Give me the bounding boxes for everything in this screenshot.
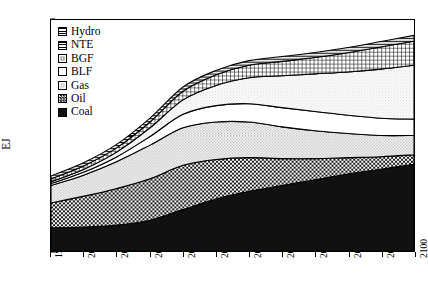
x-tick-mark — [116, 252, 117, 257]
x-tick-mark — [249, 252, 250, 257]
x-tick-mark — [183, 252, 184, 257]
legend-item-nte[interactable]: NTE — [58, 38, 100, 51]
x-tick-mark — [349, 252, 350, 257]
legend-label: BGF — [71, 53, 93, 65]
legend-swatch-gas-icon — [58, 81, 67, 90]
legend-swatch-blf-icon — [58, 67, 67, 76]
chart-legend: HydroNTEBGFBLFGasOilCoal — [58, 25, 100, 119]
y-axis-label: EJ — [0, 138, 12, 150]
legend-label: Gas — [71, 80, 89, 92]
legend-swatch-oil-icon — [58, 94, 67, 103]
x-tick-mark — [83, 252, 84, 257]
x-tick-label: 2100 — [419, 239, 428, 258]
legend-item-hydro[interactable]: Hydro — [58, 25, 100, 38]
x-tick-mark — [382, 252, 383, 257]
legend-label: Hydro — [71, 26, 100, 38]
legend-label: NTE — [71, 39, 93, 51]
legend-swatch-coal-icon — [58, 108, 67, 117]
legend-swatch-hydro-icon — [58, 27, 67, 36]
x-tick-mark — [150, 252, 151, 257]
legend-item-gas[interactable]: Gas — [58, 79, 100, 92]
legend-item-coal[interactable]: Coal — [58, 105, 100, 118]
legend-swatch-bgf-icon — [58, 54, 67, 63]
x-tick-mark — [315, 252, 316, 257]
legend-item-bgf[interactable]: BGF — [58, 52, 100, 65]
plot-area — [50, 19, 415, 252]
x-tick-mark — [415, 252, 416, 257]
legend-label: Oil — [71, 93, 86, 105]
stacked-area-svg — [51, 20, 414, 251]
chart-figure: SOTC EJ 020040060080010001200 1990200020… — [0, 0, 428, 298]
legend-swatch-nte-icon — [58, 41, 67, 50]
legend-label: BLF — [71, 66, 92, 78]
x-tick-mark — [50, 252, 51, 257]
legend-item-blf[interactable]: BLF — [58, 65, 100, 78]
x-tick-mark — [282, 252, 283, 257]
legend-label: Coal — [71, 106, 93, 118]
x-tick-mark — [216, 252, 217, 257]
legend-item-oil[interactable]: Oil — [58, 92, 100, 105]
